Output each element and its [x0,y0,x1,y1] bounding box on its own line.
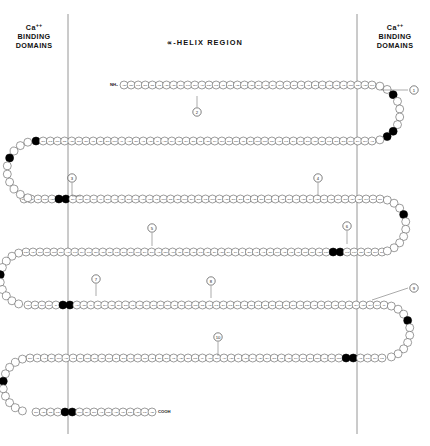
svg-text:Met: Met [193,357,197,360]
callout-10[interactable]: 10 [214,333,222,356]
svg-text:Glu: Glu [238,198,242,201]
residue-bead [0,263,6,271]
svg-text:Asp: Asp [243,357,248,360]
svg-text:Glu: Glu [152,304,156,307]
residue-bead [24,194,32,202]
svg-text:Glu: Glu [227,140,231,143]
residue-bead: Gln [328,354,336,362]
svg-text:10: 10 [216,335,221,340]
residue-bead: Lys [141,408,149,416]
svg-text:Thr: Thr [356,84,360,87]
residue-bead [16,142,24,150]
residue-bead: Asn [285,354,293,362]
callout-4[interactable]: 4 [314,174,322,196]
svg-text:Glu: Glu [363,140,367,143]
callout-9[interactable]: 9 [372,284,418,300]
residue-bead [383,133,391,141]
svg-text:Thr: Thr [108,251,112,254]
svg-text:Thr: Thr [310,251,314,254]
residue-bead [16,190,24,198]
svg-text:Glu: Glu [122,251,126,254]
svg-text:Met: Met [193,304,197,307]
residue-bead: Tyr [292,354,300,362]
svg-text:Asp: Asp [82,304,87,307]
residue-bead: Gly [255,81,263,89]
svg-text:Glu: Glu [193,84,197,87]
svg-text:Leu: Leu [370,84,375,87]
callout-6[interactable]: 6 [343,222,351,244]
svg-text:Gln: Gln [191,140,195,143]
residue-bead: Ile [118,137,126,145]
svg-text:Tyr: Tyr [145,304,149,307]
residue-bead [1,370,9,378]
svg-text:Phe: Phe [43,198,48,201]
residue-bead: Asp [148,354,156,362]
svg-text:Asp: Asp [179,357,184,360]
residue-bead [18,407,26,415]
svg-text:Ala: Ala [299,84,303,87]
svg-text:Glu: Glu [157,357,161,360]
svg-text:Arg: Arg [171,251,175,254]
svg-text:Val: Val [242,140,246,143]
svg-text:Leu: Leu [136,357,141,360]
residue-bead: Lys [378,354,386,362]
residue-bead: Lys [325,137,333,145]
svg-text:Asn: Asn [264,84,269,87]
callout-7[interactable]: 7 [92,275,100,296]
svg-text:Asp: Asp [96,304,101,307]
residue-bead [10,147,18,155]
svg-text:Glu: Glu [84,140,88,143]
callout-2[interactable]: 2 [193,96,201,116]
residue-bead: Phe [226,81,234,89]
residue-bead: Met [111,137,119,145]
svg-text:Val: Val [26,304,30,307]
svg-text:Glu: Glu [371,198,375,201]
svg-text:Val: Val [350,198,354,201]
residue-bead [6,154,14,162]
residue-bead: Thr [354,81,362,89]
svg-text:Tyr: Tyr [364,198,368,201]
residue-bead: Glu [311,81,319,89]
svg-text:Asp: Asp [313,140,318,143]
residue-bead: Gly [269,81,277,89]
callout-3[interactable]: 3 [68,174,81,196]
svg-text:Leu: Leu [77,411,82,414]
residue-bead [349,354,357,362]
callout-8[interactable]: 8 [207,277,215,298]
residue-bead: Thr [47,408,55,416]
residue-bead: Ala [304,81,312,89]
svg-text:Val: Val [178,251,182,254]
residue-bead: Leu [134,354,142,362]
residue-bead: Asp [170,81,178,89]
svg-text:Leu: Leu [349,140,354,143]
residue-bead: Glu [299,354,307,362]
residue-bead: Gly [168,137,176,145]
residue-bead: His [333,81,341,89]
residue-bead: Asp [242,354,250,362]
svg-text:Glu: Glu [263,304,267,307]
svg-text:Glu: Glu [34,411,38,414]
residue-bead: Gly [263,354,271,362]
residue-bead: Ala [356,354,364,362]
svg-text:Gln: Gln [272,357,276,360]
residue-bead: Glu [213,354,221,362]
svg-text:Val: Val [297,251,301,254]
residue-bead: Asp [96,137,104,145]
svg-text:Met: Met [52,251,56,254]
svg-text:Glu: Glu [40,304,44,307]
chain-row-1: GluLysLeuThrAspGluGluValAspGluMetIleArgG… [32,137,376,145]
residue-bead: Gly [182,137,190,145]
callout-5[interactable]: 5 [148,224,156,246]
residue-bead: Met [254,137,262,145]
svg-text:Gln: Gln [343,198,347,201]
residue-bead [376,136,384,144]
residue-bead [32,137,40,145]
residue-bead: Thr [148,81,156,89]
residue-bead: Arg [62,354,70,362]
svg-text:Asp: Asp [366,251,371,254]
residue-bead: Val [340,81,348,89]
svg-text:Gln: Gln [129,251,133,254]
residue-bead: Thr [268,137,276,145]
residue-bead: Thr [127,81,135,89]
svg-text:Met: Met [303,251,307,254]
